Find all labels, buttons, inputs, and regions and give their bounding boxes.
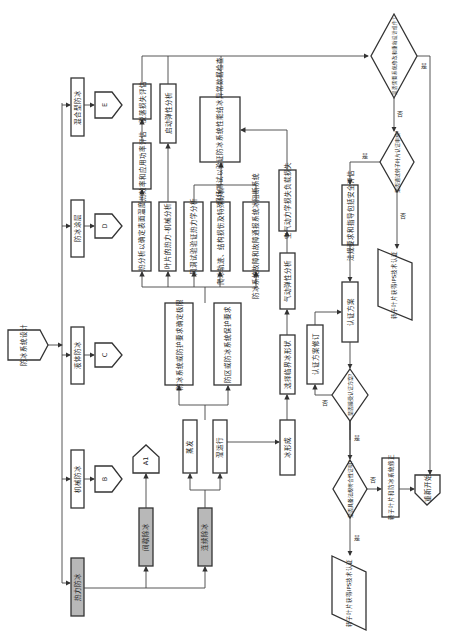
rotor-fix: 转子叶片和防冰系统修正: [382, 454, 399, 520]
continuous-deicing: 连续除冰: [198, 508, 212, 566]
svg-text:热力防冰: 热力防冰: [73, 573, 82, 601]
followup-aeroelastic: 启动弹性分析: [160, 84, 176, 143]
decision-pass[interactable]: 是否通过转子叶片认证审核?: [380, 130, 414, 193]
svg-text:机械防冰: 机械防冰: [73, 465, 82, 493]
analysis-1: 热分析以确定表面温度: [132, 201, 151, 271]
svg-text:否: 否: [322, 399, 328, 407]
output-cert-1: 转子叶片获得IPS技术认证: [332, 556, 366, 630]
field-test: 现场测试以验证防冰系统性能结冰异常数据检查: [200, 57, 240, 204]
svg-text:防冰系统故障和故障通报系统冰阻断系统: 防冰系统故障和故障通报系统冰阻断系统: [251, 173, 260, 299]
svg-text:热分析以确定表面温度: 热分析以确定表面温度: [137, 201, 146, 271]
decision-accept[interactable]: 是否接受认证方案?: [332, 369, 368, 421]
ice-formation: 冰形成: [280, 420, 295, 475]
output-cert-2: 转子叶片获得IPS技术认证: [378, 249, 412, 320]
start-node: 防冰系统设计: [8, 324, 48, 366]
svg-text:否: 否: [370, 476, 376, 484]
svg-text:E: E: [101, 103, 109, 107]
svg-text:是: 是: [354, 434, 360, 442]
svg-text:防冰系统设计: 防冰系统设计: [19, 324, 28, 366]
svg-text:防冰涂层: 防冰涂层: [73, 214, 82, 242]
svg-text:否: 否: [400, 212, 406, 220]
svg-text:蒸发: 蒸发: [185, 440, 194, 454]
analysis-3: 风洞试验验证热力学分析: [184, 198, 203, 275]
aeroelastic-analysis: 气动弹性分析: [280, 253, 295, 309]
mode-wet-run: 湿运行: [213, 420, 227, 473]
svg-text:液体防冰: 液体防冰: [73, 341, 82, 369]
svg-text:转子叶片和防冰系统修正: 转子叶片和防冰系统修正: [387, 454, 395, 520]
mode-evaporate: 蒸发: [183, 420, 197, 473]
svg-text:是否接受认证方案?: 是否接受认证方案?: [347, 373, 354, 416]
svg-text:启动弹性分析: 启动弹性分析: [164, 92, 173, 134]
svg-text:重新开始: 重新开始: [423, 474, 432, 502]
analysis-2: 叶片的热力-机械分析: [159, 202, 176, 271]
svg-text:是否具备法规符合性证明?: 是否具备法规符合性证明?: [347, 460, 354, 518]
svg-text:叶片的热力-机械分析: 叶片的热力-机械分析: [163, 203, 172, 268]
svg-text:C: C: [101, 352, 109, 357]
aero-loss: 空气动力学损失负载损失: [279, 162, 296, 239]
svg-text:是否通过转子叶片认证审核?: 是否通过转子叶片认证审核?: [394, 130, 401, 193]
branch-mechanical: 机械防冰 B: [62, 450, 122, 508]
svg-text:防区或防冰系统保护要求: 防区或防冰系统保护要求: [223, 306, 232, 383]
svg-text:选择临界冰形状: 选择临界冰形状: [283, 340, 292, 389]
requirement-2: 防区或防冰系统保护要求: [214, 303, 241, 385]
svg-text:是: 是: [354, 534, 360, 542]
svg-text:B: B: [101, 477, 109, 481]
svg-text:认证方案: 认证方案: [346, 298, 355, 326]
svg-text:是: 是: [362, 152, 368, 160]
svg-text:气动弹性分析: 气动弹性分析: [283, 260, 292, 302]
svg-text:防冰系统或防护要求确定极限: 防冰系统或防护要求确定极限: [175, 299, 184, 390]
svg-text:A1: A1: [142, 457, 150, 466]
svg-text:转子叶片获得IPS技术认证: 转子叶片获得IPS技术认证: [390, 251, 398, 319]
critical-ice-shape: 选择临界冰形状: [280, 335, 295, 394]
followup-shedding: 脱落损失评估: [133, 81, 151, 123]
svg-text:现场测试以验证防冰系统性能结冰异常数据检查: 现场测试以验证防冰系统性能结冰异常数据检查: [215, 57, 224, 204]
branch-thermal: 热力防冰: [62, 558, 84, 616]
svg-text:法规要求和指导包括安全评估: 法规要求和指导包括安全评估: [346, 170, 355, 261]
branch-liquid: 液体防冰 C: [62, 327, 122, 384]
svg-text:转子叶片获得IPS技术认证: 转子叶片获得IPS技术认证: [345, 559, 353, 627]
branch-coating: 防冰涂层 D: [62, 200, 122, 257]
svg-text:热效率和应用功率评估: 热效率和应用功率评估: [138, 131, 147, 201]
svg-text:否: 否: [397, 110, 403, 118]
cert-revise: 认证方案修订: [307, 325, 323, 384]
svg-text:混合型防冰: 混合型防冰: [73, 90, 82, 125]
svg-text:风洞试验验证热力学分析: 风洞试验验证热力学分析: [189, 198, 198, 275]
svg-text:湿运行: 湿运行: [215, 437, 224, 458]
svg-text:间歇除冰: 间歇除冰: [141, 523, 150, 551]
intermittent-deicing: 间歇除冰 A1: [133, 445, 159, 566]
branch-hybrid: 混合型防冰 E: [62, 78, 122, 136]
svg-text:认证方案修订: 认证方案修订: [311, 333, 320, 375]
svg-text:冰形成: 冰形成: [283, 437, 292, 458]
requirement-1: 防冰系统或防护要求确定极限: [165, 299, 193, 390]
cert-plan: 认证方案: [342, 282, 358, 342]
svg-text:连续除冰: 连续除冰: [200, 523, 209, 551]
svg-text:脱落损失评估: 脱落损失评估: [138, 81, 147, 123]
svg-text:是否需要系统修改和重新设计组件?: 是否需要系统修改和重新设计组件?: [391, 17, 398, 95]
svg-text:是: 是: [421, 62, 427, 70]
svg-text:D: D: [101, 223, 109, 228]
flowchart: 防冰系统设计 混合型防冰 E 防冰涂层 D 液体防冰 C 机械防冰 B: [0, 0, 452, 633]
svg-text:空气动力学损失负载损失: 空气动力学损失负载损失: [283, 162, 292, 239]
restart-node: 重新开始: [415, 474, 440, 505]
